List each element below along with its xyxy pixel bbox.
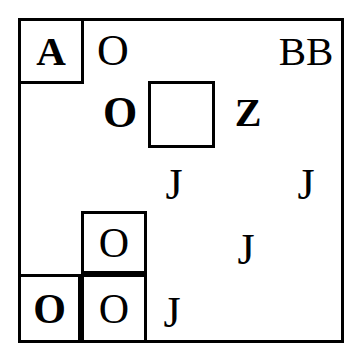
glyph-o-bottom-left: O xyxy=(18,274,81,343)
diagram-canvas: AOBBOZJJOJOOJ xyxy=(0,0,362,362)
glyph-o-top: O xyxy=(88,26,138,76)
glyph-j-left: J xyxy=(152,160,196,210)
glyph-o-lower-boxed: O xyxy=(81,211,147,274)
glyph-j-bottom: J xyxy=(150,288,194,338)
glyph-bb-top-right: BB xyxy=(272,26,340,76)
box-center-empty xyxy=(148,81,215,148)
glyph-z-bold: Z xyxy=(224,90,272,136)
glyph-j-right: J xyxy=(284,160,328,210)
glyph-a-boxed: A xyxy=(18,18,84,84)
glyph-o-bold-middle: O xyxy=(95,88,145,138)
glyph-o-bottom-mid: O xyxy=(81,274,147,343)
glyph-j-middle: J xyxy=(224,225,268,275)
